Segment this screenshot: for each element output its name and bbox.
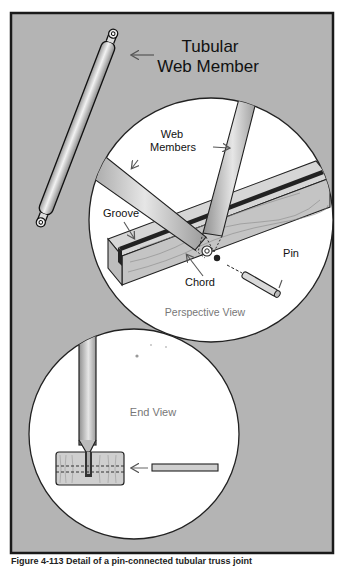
groove-label: Groove bbox=[103, 207, 139, 219]
web-members-label-line1: Web bbox=[161, 128, 183, 140]
tubular-label-line1: Tubular bbox=[181, 37, 238, 56]
end-view-label: End View bbox=[130, 406, 176, 418]
pin-label: Pin bbox=[283, 247, 299, 259]
tubular-label-line2: Web Member bbox=[157, 57, 259, 76]
figure-caption: Figure 4-113 Detail of a pin-connected t… bbox=[11, 556, 252, 566]
web-members-label-line2: Members bbox=[150, 141, 196, 153]
chord-label: Chord bbox=[185, 276, 215, 288]
perspective-view-label: Perspective View bbox=[165, 306, 246, 318]
